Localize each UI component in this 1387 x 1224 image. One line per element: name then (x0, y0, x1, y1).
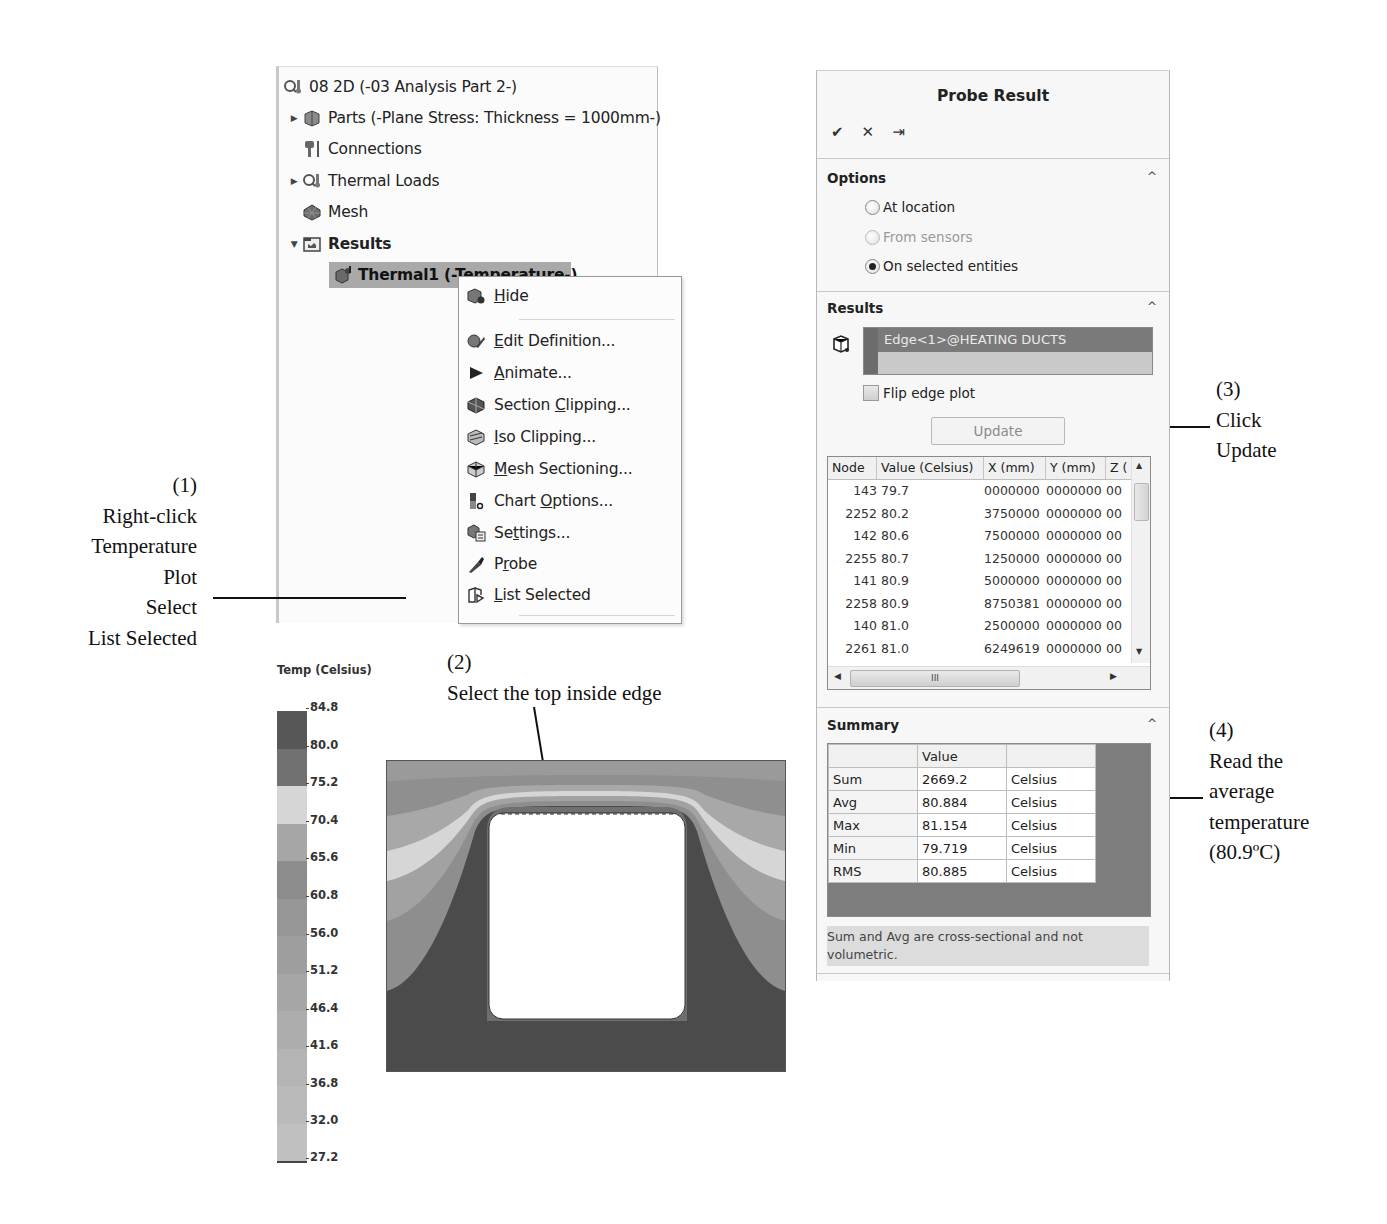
menu-label: Probe (494, 555, 537, 573)
tree-root-study[interactable]: 08 2D (-03 Analysis Part 2-) (282, 74, 517, 100)
checkbox[interactable] (863, 385, 879, 401)
radio-button-checked[interactable] (865, 259, 880, 274)
tree-item-results[interactable]: ▼ Results (287, 231, 391, 257)
table-row[interactable]: 143 79.7 0000000 0000000 00 (828, 480, 1132, 503)
tree-root-label: 08 2D (-03 Analysis Part 2-) (309, 78, 517, 96)
divider (817, 707, 1169, 708)
annotation-step-2: (2) Select the top inside edge (447, 647, 662, 708)
tree-item-thermal-loads[interactable]: ▶ Thermal Loads (287, 168, 439, 194)
vertical-scroll-thumb[interactable] (1134, 483, 1149, 521)
contour-graphic (387, 761, 785, 1071)
context-menu: Hide Edit Definition... Animate... Secti… (458, 276, 682, 624)
legend-tick: 70.4 (310, 813, 338, 827)
selected-edge-item[interactable]: Edge<1>@HEATING DUCTS (878, 328, 1152, 352)
results-section-title: Results (827, 300, 883, 316)
legend-band (277, 1049, 307, 1086)
scroll-up-arrow-icon[interactable]: ▲ (1136, 461, 1142, 470)
menu-item-mesh-sectioning[interactable]: Mesh Sectioning... (465, 456, 633, 482)
chart-options-icon (465, 491, 487, 511)
scroll-down-arrow-icon[interactable]: ▼ (1136, 647, 1142, 656)
expand-arrow-icon[interactable]: ▶ (287, 113, 301, 123)
leader-line-step-3 (1165, 426, 1210, 428)
summary-row-rms: RMS 80.885 Celsius (829, 860, 1096, 883)
pin-icon[interactable]: ⇥ (892, 123, 905, 141)
table-row[interactable]: 142 80.6 7500000 0000000 00 (828, 525, 1132, 548)
radio-at-location[interactable]: At location (865, 199, 955, 215)
scroll-left-arrow-icon[interactable]: ◀ (834, 671, 841, 681)
scroll-right-arrow-icon[interactable]: ▶ (1110, 671, 1117, 681)
collapse-arrow-icon[interactable]: ▼ (287, 239, 301, 249)
table-row[interactable]: 2261 81.0 6249619 0000000 00 (828, 638, 1132, 661)
menu-label: Section Clipping... (494, 396, 631, 414)
menu-item-probe[interactable]: Probe (465, 551, 537, 577)
settings-icon (465, 523, 487, 543)
menu-separator (519, 319, 675, 320)
menu-item-hide[interactable]: Hide (465, 283, 529, 309)
menu-label: Edit Definition... (494, 332, 615, 350)
legend-tick: 60.8 (310, 888, 338, 902)
col-node[interactable]: Node (828, 457, 877, 479)
divider (817, 973, 1169, 974)
tree-item-connections[interactable]: Connections (287, 136, 422, 162)
legend-band (277, 711, 307, 749)
hide-icon (465, 286, 487, 306)
legend-tick: 27.2 (310, 1150, 338, 1164)
summary-header-row: Value (829, 745, 1096, 768)
legend-tick: 75.2 (310, 775, 338, 789)
col-y[interactable]: Y (mm) (1046, 457, 1106, 479)
flip-edge-plot-checkbox[interactable]: Flip edge plot (863, 385, 975, 401)
selected-entities-list[interactable]: Edge<1>@HEATING DUCTS (863, 327, 1153, 375)
menu-label: Hide (494, 287, 529, 305)
menu-item-animate[interactable]: Animate... (465, 360, 572, 386)
menu-item-edit-definition[interactable]: Edit Definition... (465, 328, 615, 354)
panel-title: Probe Result (817, 87, 1169, 105)
horizontal-scroll-thumb[interactable]: III (850, 670, 1020, 687)
menu-item-list-selected[interactable]: List Selected (465, 582, 591, 608)
menu-item-settings[interactable]: Settings... (465, 520, 570, 546)
menu-item-chart-options[interactable]: Chart Options... (465, 488, 613, 514)
legend-band (277, 1086, 307, 1124)
tree-item-parts[interactable]: ▶ Parts (-Plane Stress: Thickness = 1000… (287, 105, 661, 131)
menu-label: Chart Options... (494, 492, 613, 510)
radio-on-selected-entities[interactable]: On selected entities (865, 258, 1018, 274)
radio-from-sensors[interactable]: From sensors (865, 229, 973, 245)
play-icon (465, 363, 487, 383)
table-row[interactable]: 2258 80.9 8750381 0000000 00 (828, 593, 1132, 616)
collapse-results-icon[interactable]: ^ (1147, 300, 1157, 314)
vertical-scrollbar[interactable]: ▲ ▼ (1131, 457, 1150, 663)
menu-item-section-clipping[interactable]: Section Clipping... (465, 392, 631, 418)
legend-band (277, 899, 307, 936)
probe-results-table[interactable]: Node Value (Celsius) X (mm) Y (mm) Z ( 1… (827, 456, 1151, 690)
radio-button[interactable] (865, 230, 880, 245)
legend-tick: 80.0 (310, 738, 338, 752)
divider (817, 158, 1169, 159)
ok-check-icon[interactable]: ✔ (831, 123, 844, 141)
tree-item-mesh[interactable]: Mesh (287, 199, 368, 225)
cancel-x-icon[interactable]: ✕ (862, 123, 875, 141)
table-row[interactable]: 141 80.9 5000000 0000000 00 (828, 570, 1132, 593)
collapse-options-icon[interactable]: ^ (1147, 170, 1157, 184)
annotation-step-4: (4) Read the average temperature (80.9ºC… (1209, 715, 1309, 868)
legend-band (277, 974, 307, 1011)
col-value[interactable]: Value (Celsius) (877, 457, 984, 479)
menu-label: Settings... (494, 524, 570, 542)
temperature-contour-plot[interactable] (386, 760, 786, 1072)
expand-arrow-icon[interactable]: ▶ (287, 176, 301, 186)
col-x[interactable]: X (mm) (984, 457, 1046, 479)
horizontal-scrollbar[interactable]: ◀ III ▶ (828, 666, 1150, 689)
col-z[interactable]: Z ( (1106, 457, 1132, 479)
table-row[interactable]: 2252 80.2 3750000 0000000 00 (828, 503, 1132, 526)
legend-tick: 36.8 (310, 1076, 338, 1090)
summary-section-title: Summary (827, 717, 899, 733)
menu-label: List Selected (494, 586, 591, 604)
radio-button[interactable] (865, 200, 880, 215)
iso-clipping-icon (465, 427, 487, 447)
update-button[interactable]: Update (931, 417, 1065, 445)
menu-item-iso-clipping[interactable]: Iso Clipping... (465, 424, 596, 450)
collapse-summary-icon[interactable]: ^ (1147, 717, 1157, 731)
menu-label: Animate... (494, 364, 572, 382)
legend-tick: 46.4 (310, 1001, 338, 1015)
table-row[interactable]: 2255 80.7 1250000 0000000 00 (828, 548, 1132, 571)
table-row[interactable]: 140 81.0 2500000 0000000 00 (828, 615, 1132, 638)
probe-result-panel: Probe Result ✔ ✕ ⇥ Options ^ At location… (816, 70, 1170, 981)
